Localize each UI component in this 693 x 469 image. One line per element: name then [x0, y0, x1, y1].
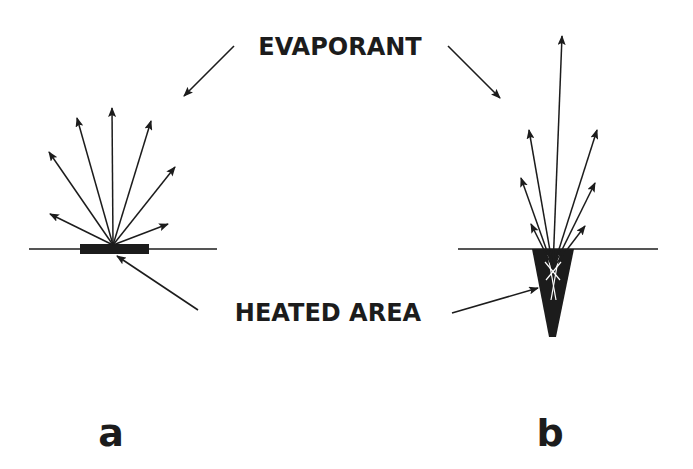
heated-bar-a	[80, 244, 149, 254]
panel-a	[29, 108, 217, 254]
panel-label-a: a	[98, 411, 124, 455]
heated-pointer-left	[117, 256, 198, 310]
panel-label-b: b	[536, 411, 563, 455]
evaporant-pointer-left	[184, 46, 234, 96]
evaporation-diagram: EVAPORANT	[0, 0, 693, 469]
heated-pointer-right	[452, 288, 538, 313]
evaporant-fan-a	[49, 108, 175, 245]
evaporant-label: EVAPORANT	[258, 33, 422, 61]
evaporant-plume-b	[521, 36, 597, 268]
evaporant-pointer-right	[448, 46, 500, 98]
panel-b	[458, 36, 658, 337]
heated-area-label: HEATED AREA	[235, 299, 422, 327]
